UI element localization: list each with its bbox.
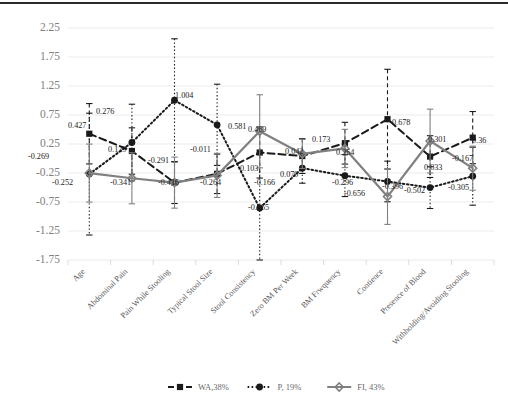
y-axis-tick-label: -1.75	[36, 253, 60, 265]
data-point-label: 0.469	[248, 125, 266, 134]
series-wa-38-	[86, 69, 476, 203]
data-point-label: 0.301	[428, 135, 446, 144]
legend-label: WA,38%	[198, 382, 229, 392]
data-point-label: 0.173	[312, 135, 330, 144]
marker-circle	[129, 139, 136, 146]
y-axis-tick-label: 2.25	[40, 21, 60, 33]
x-axis-category-label: Stool Consistency	[209, 266, 258, 315]
data-point-label: 0.678	[392, 118, 410, 127]
legend-item[interactable]: WA,38%	[168, 382, 229, 392]
legend-item[interactable]: P, 19%	[248, 382, 302, 392]
legend-label: FI, 43%	[357, 382, 384, 392]
forest-plot-svg: 2.251.751.250.750.25-0.25-0.75-1.25-1.75…	[0, 0, 508, 408]
x-axis-category-labels: AgeAbdominal PainPain While StoolingTypi…	[71, 266, 470, 346]
data-point-label: 0.264	[336, 148, 354, 157]
series-p-19-	[86, 39, 476, 260]
data-point-label: 1.004	[175, 91, 193, 100]
x-axis-category-label: Presence of Blood	[379, 267, 428, 316]
data-point-label: -0.305	[448, 183, 469, 192]
x-axis-category-label: Age	[71, 267, 87, 283]
y-gridlines: 2.251.751.250.750.25-0.25-0.75-1.25-1.75	[36, 21, 494, 265]
plot-area: 2.251.751.250.750.25-0.25-0.75-1.25-1.75…	[0, 0, 508, 408]
y-axis-tick-label: -0.75	[36, 195, 60, 207]
data-point-label: -0.011	[190, 145, 211, 154]
x-axis-category-label: Withholding/Avoiding Stooling	[391, 267, 471, 347]
data-point-label: -0.166	[254, 178, 275, 187]
data-point-label: -0.341	[110, 178, 131, 187]
data-point-label: -0.167	[452, 154, 473, 163]
x-axis-category-label: Contience	[355, 267, 385, 297]
data-point-label: -0.252	[52, 178, 73, 187]
data-point-label: 0.079	[280, 170, 298, 179]
chart-figure: 2.251.751.250.750.25-0.25-0.75-1.25-1.75…	[0, 0, 508, 408]
x-axis-category-label: Abdominal Pain	[85, 267, 129, 311]
y-axis-tick-label: 1.25	[40, 79, 60, 91]
data-point-label: 0.276	[96, 107, 114, 116]
data-point-label: -0.396	[382, 182, 403, 191]
data-point-label: 0.427	[68, 121, 86, 130]
marker-circle	[427, 184, 434, 191]
x-axis-category-label: Typical Stool Size	[166, 267, 215, 316]
data-point-label: 0.103	[240, 164, 258, 173]
data-point-label: -0.269	[28, 152, 49, 161]
data-point-label: 0.033	[424, 163, 442, 172]
legend-label: P, 19%	[278, 382, 302, 392]
data-point-label: 0.042	[285, 147, 303, 156]
data-point-label: -0.291	[148, 156, 169, 165]
chart-legend: WA,38%P, 19%FI, 43%	[168, 382, 385, 392]
y-axis-tick-label: -1.25	[36, 224, 60, 236]
y-axis-tick-label: 0.75	[40, 108, 60, 120]
data-point-label: 0.129	[108, 145, 126, 154]
legend-item[interactable]: FI, 43%	[327, 382, 384, 392]
marker-square	[384, 116, 390, 122]
data-point-label: -0.296	[332, 178, 353, 187]
x-axis	[68, 260, 494, 265]
data-point-label: -0.416	[158, 178, 179, 187]
legend-marker-circle	[256, 384, 263, 391]
data-point-label: -0.656	[344, 189, 365, 198]
data-point-label: 0.581	[228, 122, 246, 131]
y-axis-tick-label: 0.25	[40, 137, 60, 149]
data-point-label: 0.36	[472, 136, 486, 145]
data-point-label: -0.855	[248, 203, 269, 212]
data-point-label: -0.264	[200, 178, 221, 187]
y-axis-tick-label: -0.25	[36, 166, 60, 178]
marker-circle	[214, 121, 221, 128]
x-axis-category-label: BM Frwquency	[299, 266, 343, 310]
legend-marker-square	[177, 384, 183, 390]
y-axis-tick-label: 1.75	[40, 50, 60, 62]
data-point-label: -0.502	[404, 186, 425, 195]
